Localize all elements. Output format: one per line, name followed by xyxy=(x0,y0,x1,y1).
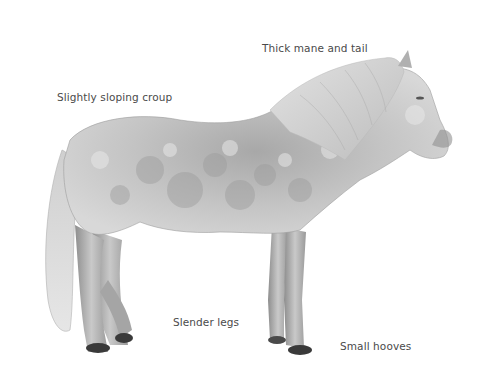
hoof-front-far xyxy=(268,336,286,344)
eye xyxy=(416,96,424,99)
annotation-small-hooves: Small hooves xyxy=(340,340,411,352)
ear xyxy=(398,50,412,68)
pony-illustration xyxy=(0,0,483,381)
illustration-canvas: Thick mane and tail Slightly sloping cro… xyxy=(0,0,483,381)
annotation-mane-and-tail: Thick mane and tail xyxy=(262,42,368,54)
hoof-hind-lifted xyxy=(115,333,133,343)
annotation-sloping-croup: Slightly sloping croup xyxy=(57,91,172,103)
front-leg-near xyxy=(284,228,306,348)
hoof-front-near xyxy=(288,345,312,355)
annotation-slender-legs: Slender legs xyxy=(173,316,239,328)
hoof-hind-near xyxy=(86,343,110,353)
